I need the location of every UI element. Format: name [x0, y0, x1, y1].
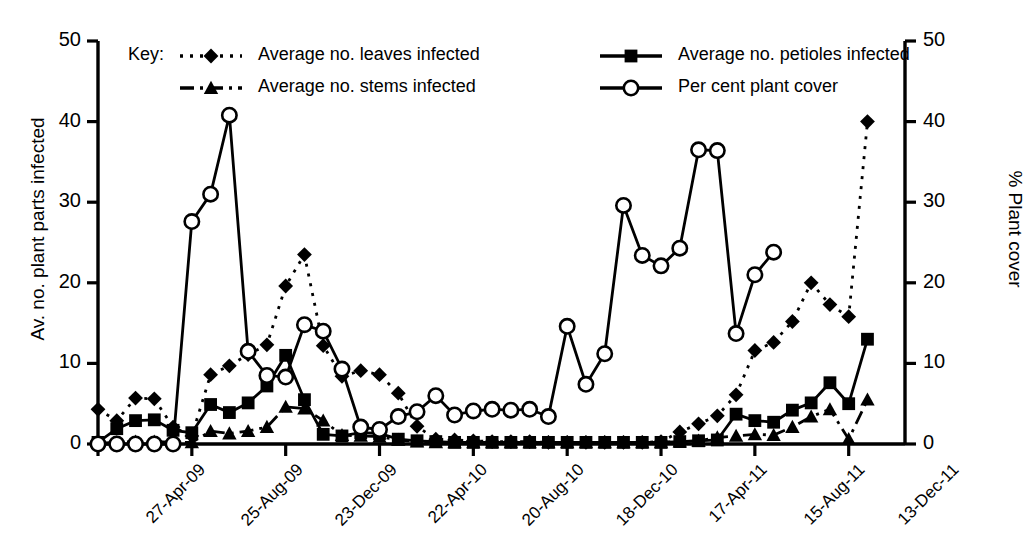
data-point-diamond — [260, 337, 275, 352]
data-point-circle-open — [624, 81, 638, 95]
data-point-circle-open — [748, 268, 762, 282]
data-point-circle-open — [710, 143, 724, 157]
data-point-diamond — [841, 309, 856, 324]
data-point-circle-open — [278, 370, 292, 384]
data-point-triangle — [841, 432, 855, 445]
data-point-triangle — [766, 428, 780, 441]
data-point-triangle — [823, 402, 837, 415]
data-point-diamond — [691, 416, 706, 431]
data-point-circle-open — [185, 214, 199, 228]
data-point-circle-open — [560, 319, 574, 333]
data-point-circle-open — [354, 420, 368, 434]
data-point-triangle — [804, 409, 818, 422]
data-point-circle-open — [635, 248, 649, 262]
legend-key-label: Key: — [128, 44, 164, 65]
data-point-square — [786, 404, 799, 417]
data-point-diamond — [203, 367, 218, 382]
data-point-diamond — [747, 343, 762, 358]
data-point-circle-open — [260, 368, 274, 382]
data-point-circle-open — [429, 388, 443, 402]
legend-label: Average no. stems infected — [258, 76, 476, 97]
data-point-diamond — [391, 386, 406, 401]
data-point-circle-open — [128, 437, 142, 451]
data-point-circle-open — [222, 108, 236, 122]
y-tick-label-left: 30 — [23, 189, 81, 212]
data-point-circle-open — [166, 437, 180, 451]
data-point-circle-open — [203, 187, 217, 201]
y-tick-label-left: 20 — [23, 270, 81, 293]
data-point-square — [842, 397, 855, 410]
data-point-square — [748, 414, 761, 427]
data-point-circle-open — [316, 324, 330, 338]
data-point-circle-open — [147, 437, 161, 451]
data-point-triangle — [316, 413, 330, 426]
data-point-diamond — [860, 114, 875, 129]
data-point-square — [223, 406, 236, 419]
data-point-circle-open — [297, 318, 311, 332]
data-point-circle-open — [335, 362, 349, 376]
data-point-square — [805, 396, 818, 409]
data-point-circle-open — [241, 344, 255, 358]
y-tick-label-left: 40 — [23, 109, 81, 132]
data-point-diamond — [128, 391, 143, 406]
y-tick-label-right: 10 — [923, 350, 981, 373]
data-point-circle-open — [466, 404, 480, 418]
data-point-square — [625, 50, 638, 63]
data-point-circle-open — [485, 402, 499, 416]
data-point-diamond — [278, 279, 293, 294]
data-point-circle-open — [91, 437, 105, 451]
data-point-circle-open — [616, 198, 630, 212]
y-tick-label-left: 10 — [23, 350, 81, 373]
data-point-circle-open — [504, 403, 518, 417]
data-point-circle-open — [410, 405, 424, 419]
data-point-square — [148, 413, 161, 426]
data-point-diamond — [297, 247, 312, 262]
data-point-circle-open — [541, 409, 555, 423]
data-point-circle-open — [372, 422, 386, 436]
data-point-diamond — [372, 367, 387, 382]
y-tick-label-right: 40 — [923, 109, 981, 132]
legend-label: Per cent plant cover — [678, 76, 838, 97]
data-point-square — [317, 428, 330, 441]
data-point-triangle — [860, 392, 874, 405]
legend-label: Average no. leaves infected — [258, 44, 480, 65]
y-tick-label-left: 50 — [23, 28, 81, 51]
y-tick-label-right: 30 — [923, 189, 981, 212]
data-point-diamond — [204, 49, 219, 64]
y-tick-label-right: 50 — [923, 28, 981, 51]
data-point-circle-open — [673, 241, 687, 255]
data-point-circle-open — [654, 259, 668, 273]
data-point-circle-open — [447, 408, 461, 422]
data-point-diamond — [91, 402, 106, 417]
data-point-square — [242, 396, 255, 409]
data-point-diamond — [729, 387, 744, 402]
data-point-circle-open — [579, 377, 593, 391]
data-point-diamond — [147, 391, 162, 406]
data-point-square — [204, 398, 217, 411]
data-point-square — [129, 414, 142, 427]
data-point-circle-open — [691, 143, 705, 157]
y-tick-label-right: 20 — [923, 270, 981, 293]
data-point-triangle — [785, 420, 799, 433]
data-point-square — [767, 416, 780, 429]
y-axis-right-title: % Plant cover — [1004, 69, 1026, 389]
data-point-diamond — [766, 335, 781, 350]
data-point-square — [824, 376, 837, 389]
series-circle-open — [91, 108, 781, 451]
legend-label: Average no. petioles infected — [678, 44, 910, 65]
y-tick-label-right: 0 — [923, 431, 981, 454]
data-point-diamond — [353, 363, 368, 378]
data-point-circle-open — [391, 409, 405, 423]
data-point-square — [861, 333, 874, 346]
data-point-circle-open — [598, 347, 612, 361]
data-point-diamond — [222, 358, 237, 373]
data-point-circle-open — [729, 326, 743, 340]
y-tick-label-left: 0 — [23, 431, 81, 454]
data-point-square — [279, 349, 292, 362]
data-point-circle-open — [110, 437, 124, 451]
data-point-square — [730, 408, 743, 421]
data-point-triangle — [729, 429, 743, 442]
data-point-circle-open — [522, 402, 536, 416]
data-point-circle-open — [766, 245, 780, 259]
